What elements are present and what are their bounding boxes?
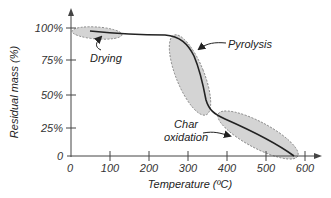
- x-tick-100: 100: [101, 162, 120, 174]
- pyrolysis-arrow-icon: [199, 43, 226, 49]
- x-tick-500: 500: [257, 162, 276, 174]
- y-axis-arrow-icon: [68, 8, 74, 16]
- x-tick-400: 400: [218, 162, 237, 174]
- tga-chart: 100% 75% 50% 25% 0 0 100 200 300 400 500…: [0, 0, 331, 198]
- drying-label: Drying: [90, 52, 123, 64]
- x-tick-0: 0: [67, 162, 74, 174]
- char-oxidation-label-2: oxidation: [164, 131, 208, 143]
- y-tick-75: 75%: [41, 54, 63, 66]
- x-axis-title: Temperature (ºC): [148, 178, 233, 190]
- y-axis-title: Residual mass (%): [8, 46, 20, 139]
- x-tick-200: 200: [139, 162, 159, 174]
- y-tick-0: 0: [57, 150, 64, 162]
- x-axis-arrow-icon: [314, 153, 322, 159]
- y-tick-100: 100%: [35, 22, 63, 34]
- y-tick-25: 25%: [40, 122, 63, 134]
- pyrolysis-label: Pyrolysis: [228, 38, 273, 50]
- x-tick-600: 600: [296, 162, 315, 174]
- y-tick-50: 50%: [41, 89, 63, 101]
- char-oxidation-label-1: Char: [174, 118, 199, 130]
- x-tick-300: 300: [179, 162, 198, 174]
